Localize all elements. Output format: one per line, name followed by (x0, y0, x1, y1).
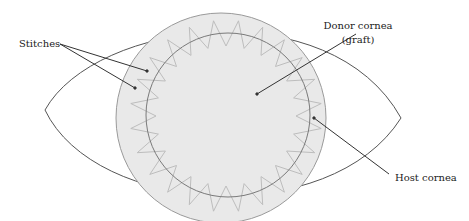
host-cornea (116, 13, 326, 221)
keratoplasty-diagram: Stitches Donor cornea (graft) Host corne… (0, 0, 469, 221)
label-host-cornea: Host cornea (395, 172, 457, 183)
leader-dot (146, 70, 148, 72)
label-stitches: Stitches (19, 38, 60, 49)
leader-stitches-1 (60, 44, 147, 71)
leader-dot (256, 93, 258, 95)
label-graft: (graft) (342, 34, 375, 45)
leader-dot (134, 87, 136, 89)
label-donor-cornea: Donor cornea (323, 20, 392, 31)
leader-dot (313, 117, 315, 119)
